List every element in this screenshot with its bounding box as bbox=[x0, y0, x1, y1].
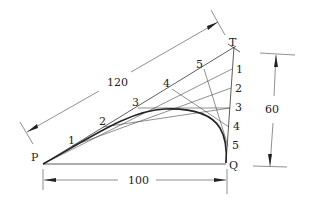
pt-division-label-3: 3 bbox=[132, 96, 139, 109]
arrow-left-icon bbox=[44, 178, 56, 182]
tq-division-label-5: 5 bbox=[232, 139, 239, 152]
dimension-60-extension-top bbox=[260, 53, 295, 55]
arrow-left-icon bbox=[27, 124, 38, 132]
arrow-down-icon bbox=[268, 154, 272, 166]
dimension-120-extension-left bbox=[20, 122, 33, 144]
arrow-right-icon bbox=[214, 178, 226, 182]
dimension-100: 100 bbox=[43, 169, 227, 194]
pt-division-label-5: 5 bbox=[196, 58, 203, 71]
dimension-60-extension-bottom bbox=[253, 166, 287, 167]
point-label-p: P bbox=[31, 151, 39, 164]
construction-lines bbox=[43, 69, 232, 164]
dimension-60-label: 60 bbox=[265, 103, 279, 116]
tq-division-label-3: 3 bbox=[235, 101, 242, 114]
pt-division-label-4: 4 bbox=[163, 77, 170, 90]
point-label-q: Q bbox=[229, 159, 238, 172]
dimension-120-line-left bbox=[27, 91, 99, 132]
dimension-120-label: 120 bbox=[107, 76, 128, 89]
parabolic-curve-construction-diagram: P Q T 1 2 3 4 5 1 2 3 4 5 120 100 60 bbox=[0, 0, 320, 202]
construction-line-1 bbox=[43, 69, 232, 164]
arrow-up-icon bbox=[274, 55, 278, 67]
dimension-60: 60 bbox=[253, 53, 295, 167]
dimension-100-label: 100 bbox=[128, 174, 149, 187]
arrow-right-icon bbox=[207, 22, 218, 30]
point-label-t: T bbox=[229, 36, 237, 49]
tq-division-label-4: 4 bbox=[233, 120, 240, 133]
dimension-120-line-right bbox=[131, 22, 218, 72]
pt-division-label-2: 2 bbox=[99, 115, 106, 128]
construction-line-5 bbox=[204, 69, 228, 146]
pt-division-label-1: 1 bbox=[68, 134, 75, 147]
dimension-120-extension-right bbox=[211, 10, 225, 35]
construction-line-3 bbox=[103, 108, 230, 127]
tq-division-label-1: 1 bbox=[236, 63, 243, 76]
tq-division-label-2: 2 bbox=[235, 82, 242, 95]
